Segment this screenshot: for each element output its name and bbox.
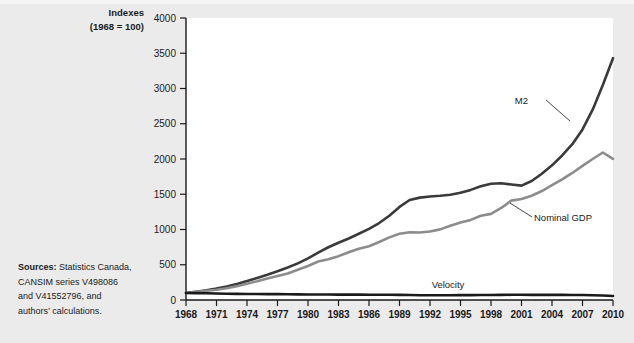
x-axis-tick-label: 1971 (205, 309, 228, 320)
y-axis-tick-label: 0 (170, 295, 176, 306)
page-top-edge (0, 0, 634, 4)
y-axis-tick-label: 1500 (154, 189, 177, 200)
x-axis-tick-label: 1995 (449, 309, 472, 320)
series-label-nominal-gdp: Nominal GDP (534, 212, 592, 223)
y-axis-tick-label: 1000 (154, 224, 177, 235)
x-axis-tick-label: 1983 (327, 309, 350, 320)
axis-title-line2: (1968 = 100) (90, 21, 144, 32)
sources-line-3: authors’ calculations. (18, 306, 102, 316)
plot-area-background (186, 18, 613, 300)
series-label-velocity: Velocity (432, 279, 465, 290)
x-axis-tick-label: 2010 (602, 309, 625, 320)
x-axis-tick-label: 2001 (510, 309, 533, 320)
series-label-m2: M2 (515, 95, 528, 106)
sources-label: Sources: (18, 262, 59, 272)
x-axis-tick-label: 1998 (480, 309, 503, 320)
y-axis-tick-label: 3000 (154, 83, 177, 94)
y-axis-tick-label: 500 (159, 259, 176, 270)
y-axis-tick-label: 4000 (154, 13, 177, 24)
x-axis-tick-label: 1989 (388, 309, 411, 320)
sources-line-0: Sources: Statistics Canada, (18, 262, 132, 272)
x-axis-tick-label: 1980 (297, 309, 320, 320)
x-axis-tick-label: 1968 (175, 309, 198, 320)
sources-line-2: and V41552796, and (18, 291, 102, 301)
axis-title-line1: Indexes (109, 7, 144, 18)
y-axis-tick-label: 2500 (154, 118, 177, 129)
sources-line-1: CANSIM series V498086 (18, 277, 118, 287)
x-axis-tick-label: 2007 (571, 309, 594, 320)
x-axis-tick-label: 2004 (541, 309, 564, 320)
y-axis-tick-label: 2000 (154, 154, 177, 165)
x-axis-tick-label: 1977 (266, 309, 289, 320)
x-axis-tick-label: 1986 (358, 309, 381, 320)
chart-figure: 0500100015002000250030003500400019681971… (0, 0, 634, 343)
x-axis-tick-label: 1992 (419, 309, 442, 320)
y-axis-tick-label: 3500 (154, 48, 177, 59)
x-axis-tick-label: 1974 (236, 309, 259, 320)
sources-line-0-text: Statistics Canada, (59, 262, 132, 272)
